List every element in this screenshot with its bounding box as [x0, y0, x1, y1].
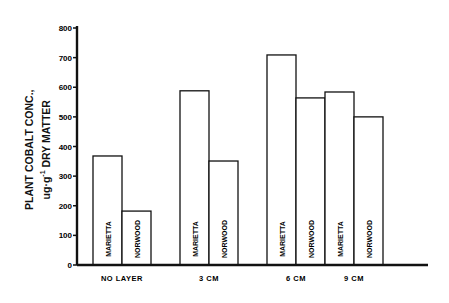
x-category-label: 6 CM [286, 274, 306, 283]
bar-series-label: NORWOOD [308, 220, 315, 258]
y-tick-label: 800 [59, 24, 73, 33]
x-category-label: NO LAYER [101, 274, 143, 283]
bar-series-label: MARIETTA [105, 221, 112, 257]
y-tick-label: 700 [59, 54, 73, 63]
bar-series-label: NORWOOD [366, 220, 373, 258]
bar-series-label: MARIETTA [192, 221, 199, 257]
bar-chart: 0100200300400500600700800MARIETTANORWOOD… [0, 0, 449, 303]
y-tick-label: 0 [68, 261, 73, 270]
y-tick-label: 400 [59, 143, 73, 152]
y-tick-label: 100 [59, 231, 73, 240]
x-category-label: 3 CM [199, 274, 219, 283]
bar-series-label: NORWOOD [134, 220, 141, 258]
bar-series-label: NORWOOD [221, 220, 228, 258]
y-tick-label: 600 [59, 83, 73, 92]
bar-series-label: MARIETTA [279, 221, 286, 257]
y-tick-label: 200 [59, 202, 73, 211]
y-tick-label: 500 [59, 113, 73, 122]
y-tick-label: 300 [59, 172, 73, 181]
bar-series-label: MARIETTA [337, 221, 344, 257]
x-category-label: 9 CM [344, 274, 364, 283]
